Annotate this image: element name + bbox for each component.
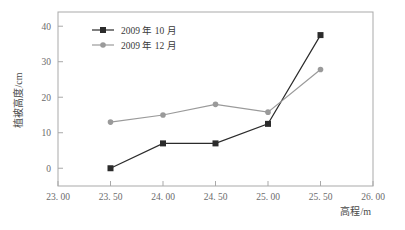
data-point-marker <box>265 121 271 127</box>
data-point-marker <box>160 140 166 146</box>
chart-canvas: 23. 0023. 5024. 0024. 5025. 0025. 5026. … <box>0 0 405 230</box>
data-point-marker <box>108 165 114 171</box>
legend-marker <box>100 42 106 48</box>
x-tick-label: 24. 00 <box>151 192 175 202</box>
y-tick-label: 20 <box>42 93 52 103</box>
x-axis-title: 高程/m <box>340 205 371 217</box>
y-tick-label: 10 <box>42 128 52 138</box>
y-axis-title: 植被高度/cm <box>12 72 24 127</box>
y-tick-label: 40 <box>42 22 52 32</box>
x-tick-label: 26. 00 <box>361 192 385 202</box>
legend-label: 2009 年 12 月 <box>121 40 177 51</box>
x-tick-label: 23. 00 <box>46 192 70 202</box>
data-point-marker <box>318 32 324 38</box>
x-tick-label: 24. 50 <box>204 192 228 202</box>
y-tick-label: 30 <box>42 57 52 67</box>
data-point-marker <box>108 119 114 125</box>
y-tick-label: 0 <box>46 164 51 174</box>
data-point-marker <box>160 112 166 118</box>
vegetation-height-chart: 23. 0023. 5024. 0024. 5025. 0025. 5026. … <box>0 0 405 230</box>
data-point-marker <box>318 67 324 73</box>
legend-label: 2009 年 10 月 <box>121 25 177 36</box>
legend-marker <box>100 27 106 33</box>
data-point-marker <box>213 140 219 146</box>
data-point-marker <box>213 102 219 108</box>
x-tick-label: 25. 00 <box>256 192 280 202</box>
x-tick-label: 23. 50 <box>99 192 123 202</box>
x-tick-label: 25. 50 <box>309 192 333 202</box>
data-point-marker <box>265 109 271 115</box>
